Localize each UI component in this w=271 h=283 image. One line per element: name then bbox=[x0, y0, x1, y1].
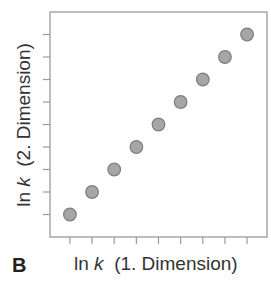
data-points bbox=[64, 28, 254, 221]
data-point bbox=[86, 186, 99, 199]
data-point bbox=[219, 51, 232, 64]
data-point bbox=[130, 141, 143, 154]
x-axis-label: ln k (1. Dimension) bbox=[74, 253, 238, 275]
data-point bbox=[174, 96, 187, 109]
data-point bbox=[64, 208, 77, 221]
scatter-plot bbox=[0, 0, 271, 283]
data-point bbox=[152, 118, 165, 131]
data-point bbox=[108, 163, 121, 176]
panel-label: B bbox=[12, 254, 26, 277]
data-point bbox=[196, 73, 209, 86]
y-axis-label: ln k (2. Dimension) bbox=[13, 43, 35, 207]
y-axis-ticks bbox=[43, 35, 50, 215]
x-axis-ticks bbox=[70, 237, 247, 244]
data-point bbox=[241, 28, 254, 41]
